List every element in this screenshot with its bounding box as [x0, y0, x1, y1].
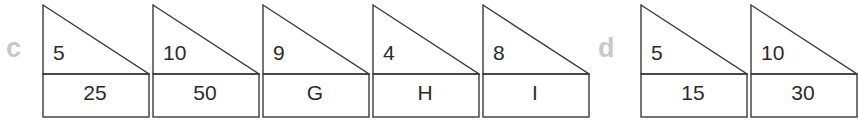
triangle-rectangle-shape: 4H [372, 4, 478, 116]
triangle-value: 10 [163, 42, 186, 63]
triangle-rectangle-shape: 1030 [750, 4, 856, 116]
triangle-value: 5 [651, 42, 663, 63]
triangle-rectangle-shape: 525 [42, 4, 148, 116]
rectangle-value: G [262, 82, 368, 103]
triangle-value: 5 [53, 42, 65, 63]
triangle-rectangle-shape: 515 [640, 4, 746, 116]
rectangle-value: 25 [42, 82, 148, 103]
triangle-value: 8 [493, 42, 505, 63]
rectangle-value: 50 [152, 82, 258, 103]
group-label-d: d [598, 35, 615, 62]
triangle-value: 4 [383, 42, 395, 63]
triangle-value: 10 [761, 42, 784, 63]
triangle-rectangle-shape: 8I [482, 4, 588, 116]
rectangle-value: H [372, 82, 478, 103]
group-label-c: c [6, 35, 21, 62]
rectangle-value: 15 [640, 82, 746, 103]
triangle-value: 9 [273, 42, 285, 63]
triangle-rectangle-shape: 9G [262, 4, 368, 116]
rectangle-value: I [482, 82, 588, 103]
triangle-rectangle-shape: 1050 [152, 4, 258, 116]
rectangle-value: 30 [750, 82, 856, 103]
